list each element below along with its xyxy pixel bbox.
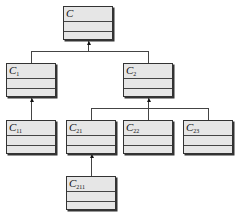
operations-compartment	[64, 32, 112, 41]
operations-compartment	[124, 89, 172, 98]
class-name: C11	[7, 121, 55, 136]
attributes-compartment	[7, 79, 55, 89]
class-box-c22: C22	[123, 120, 173, 154]
operations-compartment	[7, 89, 55, 98]
class-name: C	[64, 7, 112, 22]
class-box-c21: C21	[66, 120, 116, 154]
operations-compartment	[124, 146, 172, 155]
class-hierarchy-diagram: C C1 C2 C11 C21 C22 C23 C211	[0, 0, 238, 223]
connector-c23-drop	[208, 108, 209, 120]
connector-c22-drop	[148, 108, 149, 120]
class-name: C1	[7, 64, 55, 79]
attributes-compartment	[67, 192, 115, 202]
attributes-compartment	[124, 79, 172, 89]
class-name: C211	[67, 177, 115, 192]
operations-compartment	[7, 146, 55, 155]
inheritance-arrow-icon	[87, 41, 91, 45]
connector-c2-bar	[91, 108, 209, 109]
attributes-compartment	[7, 136, 55, 146]
connector-c21-drop	[91, 108, 92, 120]
attributes-compartment	[64, 22, 112, 32]
connector-c2-drop	[148, 51, 149, 63]
attributes-compartment	[184, 136, 232, 146]
class-name: C23	[184, 121, 232, 136]
class-box-c2: C2	[123, 63, 173, 97]
attributes-compartment	[124, 136, 172, 146]
class-box-c211: C211	[66, 176, 116, 210]
class-box-c11: C11	[6, 120, 56, 154]
operations-compartment	[67, 202, 115, 211]
inheritance-arrow-icon	[147, 98, 151, 102]
class-box-c: C	[63, 6, 113, 40]
attributes-compartment	[67, 136, 115, 146]
inheritance-arrow-icon	[30, 98, 34, 102]
connector-c1-drop	[31, 51, 32, 63]
operations-compartment	[67, 146, 115, 155]
class-name: C2	[124, 64, 172, 79]
class-name: C22	[124, 121, 172, 136]
connector-c-bar	[31, 51, 149, 52]
operations-compartment	[184, 146, 232, 155]
class-box-c23: C23	[183, 120, 233, 154]
class-box-c1: C1	[6, 63, 56, 97]
class-name: C21	[67, 121, 115, 136]
